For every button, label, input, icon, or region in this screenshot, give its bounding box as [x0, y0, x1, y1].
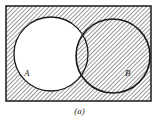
set-b-label: B — [125, 68, 131, 78]
venn-diagram: A B — [0, 0, 159, 120]
figure-caption: (a) — [0, 106, 159, 116]
set-a-label: A — [23, 68, 30, 78]
